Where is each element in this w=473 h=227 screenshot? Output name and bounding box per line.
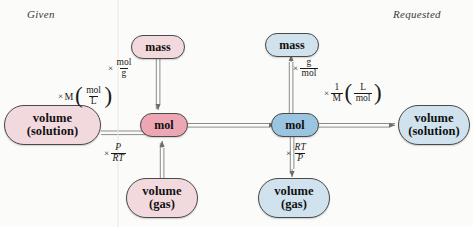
fraction-numerator: g xyxy=(305,58,314,68)
node-label-line1: volume xyxy=(414,112,454,126)
fraction-denominator: P xyxy=(295,153,305,164)
fraction-numerator: L xyxy=(358,83,368,93)
paren-open: ( xyxy=(75,87,83,105)
node-label-line2: (solution) xyxy=(27,125,79,139)
fraction-rt-over-p: RT P xyxy=(293,143,308,163)
given-label: Given xyxy=(27,8,55,20)
requested-label: Requested xyxy=(393,8,441,20)
operator-molarity: × M ( mol L ) xyxy=(58,86,112,106)
node-volume-gas-given[interactable]: volume (gas) xyxy=(126,178,198,218)
fraction-mol-per-liter: mol L xyxy=(84,86,103,106)
paren-open: ( xyxy=(345,84,353,102)
paren-close: ) xyxy=(104,87,112,105)
fraction-denominator: g xyxy=(120,68,129,79)
fraction-numerator: mol xyxy=(115,58,134,68)
edge-volume-gas-to-mol-given xyxy=(160,141,164,178)
node-volume-gas-requested[interactable]: volume (gas) xyxy=(258,178,330,218)
node-mass-given[interactable]: mass xyxy=(131,35,185,59)
node-mass-requested[interactable]: mass xyxy=(265,33,319,57)
paren-close: ) xyxy=(374,84,382,102)
node-label-line2: (solution) xyxy=(408,125,460,139)
fraction-numerator: 1 xyxy=(332,83,341,93)
times-symbol: × xyxy=(293,63,298,73)
fraction-numerator: RT xyxy=(293,143,308,153)
node-label-line1: mass xyxy=(279,39,305,52)
fraction-denominator: mol xyxy=(300,68,319,79)
fraction-p-over-rt: P RT xyxy=(111,143,126,163)
times-symbol: × xyxy=(58,91,63,101)
operator-molar-mass-inverse: × mol g xyxy=(108,58,133,78)
fraction-liter-per-mol: L mol xyxy=(354,83,373,103)
node-label-line1: mol xyxy=(154,119,174,132)
node-mol-requested[interactable]: mol xyxy=(271,113,319,137)
times-symbol: × xyxy=(108,63,113,73)
molarity-symbol: M xyxy=(65,91,74,102)
page-bleed-text xyxy=(0,218,473,227)
fraction-denominator: L xyxy=(89,96,99,107)
edge-mass-to-mol-given xyxy=(156,59,160,110)
node-label-line1: volume xyxy=(142,185,182,199)
fraction-denominator: mol xyxy=(354,93,373,104)
operator-inverse-molarity: × 1 M ( L mol ) xyxy=(324,83,382,103)
fraction-one-over-m: 1 M xyxy=(331,83,343,103)
node-label-line2: (gas) xyxy=(281,198,307,212)
node-label-line1: volume xyxy=(33,112,73,126)
node-label-line1: mass xyxy=(145,41,171,54)
edge-mol-to-volume-solution-requested xyxy=(319,124,395,128)
fraction-numerator: mol xyxy=(84,86,103,96)
fraction-numerator: P xyxy=(113,143,123,153)
node-volume-solution-given[interactable]: volume (solution) xyxy=(4,105,101,145)
operator-ideal-gas-from-mol: × RT P xyxy=(286,143,308,163)
node-label-line1: volume xyxy=(274,185,314,199)
node-label-line1: mol xyxy=(285,119,305,132)
times-symbol: × xyxy=(286,148,291,158)
fraction-gram-per-mol: g mol xyxy=(300,58,319,78)
fraction-denominator: RT xyxy=(111,153,126,164)
times-symbol: × xyxy=(104,148,109,158)
fraction-mol-per-gram: mol g xyxy=(115,58,134,78)
fraction-denominator: M xyxy=(331,93,343,104)
node-volume-solution-requested[interactable]: volume (solution) xyxy=(398,105,470,145)
node-mol-given[interactable]: mol xyxy=(140,113,188,137)
edge-mol-given-to-mol-requested xyxy=(188,124,275,128)
operator-molar-mass: × g mol xyxy=(293,58,318,78)
node-label-line2: (gas) xyxy=(149,198,175,212)
operator-ideal-gas-to-mol: × P RT xyxy=(104,143,126,163)
times-symbol: × xyxy=(324,88,329,98)
